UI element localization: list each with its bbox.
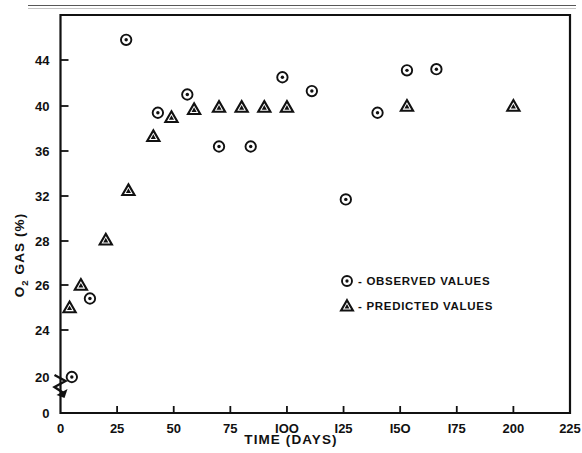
y-axis-title: O2 GAS (%) <box>12 213 30 298</box>
legend-entry-observed: - OBSERVED VALUES <box>342 275 490 287</box>
svg-text:O2 GAS (%): O2 GAS (%) <box>12 213 30 298</box>
predicted-triangle-marker-icon <box>341 300 353 310</box>
data-point-predicted <box>258 101 270 112</box>
data-point-predicted <box>213 101 225 112</box>
data-point-observed <box>277 72 287 82</box>
x-tick-label: 225 <box>559 421 581 436</box>
plot-frame <box>61 15 571 413</box>
data-point-observed <box>372 108 382 118</box>
data-point-observed <box>402 65 412 75</box>
y-tick-label: 32 <box>35 189 49 204</box>
data-point-observed <box>121 35 131 45</box>
x-axis-title: TIME (DAYS) <box>244 432 337 447</box>
y-tick-label: 36 <box>35 144 49 159</box>
data-point-predicted <box>281 101 293 112</box>
y-axis-tick-labels: 02024262832364044 <box>35 53 50 421</box>
data-point-predicted <box>100 234 112 245</box>
y-tick-label: 26 <box>35 278 49 293</box>
y-axis-title-main: O <box>12 286 27 298</box>
data-point-predicted <box>122 184 134 195</box>
series-observed-values <box>67 35 442 383</box>
y-tick-label: 44 <box>35 53 50 68</box>
data-point-observed <box>431 64 441 74</box>
data-point-observed <box>341 194 351 204</box>
chart-legend: - OBSERVED VALUES - PREDICTED VALUES <box>341 275 493 312</box>
x-tick-label: I5O <box>390 421 411 436</box>
data-point-predicted <box>507 100 519 111</box>
x-tick-label: 75 <box>223 421 237 436</box>
data-point-predicted <box>188 103 200 114</box>
data-point-observed <box>153 108 163 118</box>
x-tick-label: 200 <box>503 421 525 436</box>
data-point-predicted <box>63 302 75 313</box>
y-tick-label: 20 <box>35 370 49 385</box>
x-tick-label: 0 <box>57 421 64 436</box>
data-point-observed <box>85 293 95 303</box>
data-point-observed <box>182 89 192 99</box>
data-point-observed <box>246 141 256 151</box>
y-tick-label: 0 <box>42 406 49 421</box>
legend-entry-predicted: - PREDICTED VALUES <box>341 300 493 312</box>
data-point-predicted <box>165 111 177 122</box>
y-tick-label: 28 <box>35 234 49 249</box>
observed-circle-marker-icon <box>342 276 352 286</box>
x-tick-label: 25 <box>110 421 124 436</box>
y-tick-label: 40 <box>35 99 49 114</box>
x-tick-label: 50 <box>166 421 180 436</box>
data-point-observed <box>307 86 317 96</box>
y-axis-ticks <box>61 60 69 330</box>
chart-figure: 0255075IOOI25I5OI75200225 02024262832364… <box>0 0 582 453</box>
legend-label-observed: - OBSERVED VALUES <box>358 275 490 287</box>
data-point-predicted <box>401 100 413 111</box>
data-point-observed <box>67 372 77 382</box>
x-tick-label: I75 <box>448 421 466 436</box>
data-point-predicted <box>75 279 87 290</box>
data-point-predicted <box>236 101 248 112</box>
data-point-predicted <box>147 130 159 141</box>
data-point-observed <box>214 141 224 151</box>
y-axis-title-rest: GAS (%) <box>12 213 27 275</box>
legend-label-predicted: - PREDICTED VALUES <box>358 300 493 312</box>
scatter-plot: 0255075IOOI25I5OI75200225 02024262832364… <box>0 0 582 453</box>
y-tick-label: 24 <box>35 323 50 338</box>
